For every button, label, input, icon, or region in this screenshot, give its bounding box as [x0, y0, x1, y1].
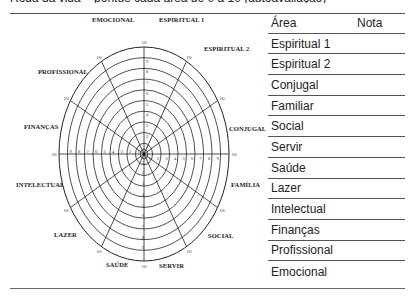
svg-text:2: 2: [129, 149, 131, 154]
label-familia: FAMÍLIA: [231, 181, 260, 188]
svg-text:10: 10: [142, 40, 148, 45]
svg-text:1: 1: [142, 160, 144, 165]
table-row: Conjugal: [268, 75, 405, 96]
svg-text:8: 8: [146, 69, 149, 74]
table-row: Emocional: [268, 261, 405, 282]
svg-text:8: 8: [78, 149, 81, 154]
svg-text:9: 9: [216, 156, 219, 161]
label-lazer: LAZER: [54, 231, 77, 238]
table-row: Familiar: [268, 96, 405, 117]
table-header: Área Nota: [268, 13, 405, 34]
svg-text:7: 7: [199, 156, 202, 161]
svg-text:4: 4: [174, 156, 177, 161]
svg-text:10: 10: [97, 249, 103, 254]
table-row: Servir: [268, 137, 405, 158]
row-area: Intelectual: [271, 202, 357, 216]
svg-text:10: 10: [64, 96, 70, 101]
label-intelectual: INTELECTUAL: [16, 181, 64, 188]
label-social: SOCIAL: [208, 232, 234, 239]
row-area: Familiar: [271, 99, 357, 113]
svg-text:7: 7: [142, 224, 145, 229]
row-area: Profissional: [271, 243, 357, 257]
header-nota: Nota: [357, 16, 405, 30]
row-area: Saúde: [271, 161, 357, 175]
table-row: Lazer: [268, 179, 405, 200]
svg-text:8: 8: [142, 235, 145, 240]
table-row: Profissional: [268, 241, 405, 262]
label-emocional: EMOCIONAL: [92, 16, 134, 23]
svg-text:1: 1: [146, 144, 148, 149]
table-row: Espiritual 2: [268, 54, 405, 75]
svg-text:5: 5: [142, 203, 145, 208]
svg-text:4: 4: [112, 149, 115, 154]
svg-text:3: 3: [165, 156, 168, 161]
table-row: Finanças: [268, 220, 405, 241]
svg-text:7: 7: [146, 80, 149, 85]
table-row: Social: [268, 116, 405, 137]
svg-text:6: 6: [142, 213, 145, 218]
row-area: Espiritual 1: [271, 37, 357, 51]
svg-text:10: 10: [187, 55, 193, 60]
row-area: Lazer: [271, 181, 357, 195]
label-espiritual-2: ESPIRITUAL 2: [204, 45, 249, 52]
wheel-of-life: 1010101010101010101010101111222233334444…: [0, 0, 265, 303]
svg-text:10: 10: [97, 55, 103, 60]
label-saude: SAÚDE: [106, 261, 129, 268]
row-area: Emocional: [271, 265, 357, 279]
svg-text:10: 10: [142, 264, 148, 269]
row-area: Finanças: [271, 223, 357, 237]
svg-text:6: 6: [95, 149, 98, 154]
scores-table: Área Nota Espiritual 1 Espiritual 2 Conj…: [268, 13, 405, 282]
svg-text:3: 3: [142, 181, 145, 186]
svg-text:5: 5: [182, 156, 185, 161]
svg-text:10: 10: [219, 208, 225, 213]
svg-text:10: 10: [219, 96, 225, 101]
svg-text:10: 10: [64, 208, 70, 213]
svg-text:4: 4: [142, 192, 145, 197]
label-profissional: PROFISSIONAL: [38, 68, 88, 75]
svg-text:9: 9: [69, 149, 72, 154]
row-area: Servir: [271, 140, 357, 154]
label-conjugal: CONJUGAL: [229, 125, 266, 132]
svg-text:10: 10: [52, 152, 58, 157]
svg-text:8: 8: [208, 156, 211, 161]
svg-text:4: 4: [146, 112, 149, 117]
table-row: Espiritual 1: [268, 34, 405, 55]
svg-text:2: 2: [142, 170, 144, 175]
svg-text:10: 10: [232, 152, 238, 157]
label-servir: SERVIR: [159, 262, 184, 269]
svg-text:6: 6: [146, 91, 149, 96]
row-area: Social: [271, 119, 357, 133]
row-area: Conjugal: [271, 78, 357, 92]
svg-text:1: 1: [137, 149, 139, 154]
svg-text:2: 2: [157, 156, 159, 161]
table-row: Intelectual: [268, 199, 405, 220]
svg-text:1: 1: [148, 156, 150, 161]
table-row: Saúde: [268, 158, 405, 179]
svg-text:7: 7: [86, 149, 89, 154]
svg-text:3: 3: [146, 123, 149, 128]
row-area: Espiritual 2: [271, 57, 357, 71]
svg-text:9: 9: [146, 59, 149, 64]
label-financas: FINANÇAS: [24, 123, 58, 130]
svg-text:6: 6: [191, 156, 194, 161]
svg-text:2: 2: [146, 134, 148, 139]
svg-text:5: 5: [103, 149, 106, 154]
svg-text:9: 9: [142, 245, 145, 250]
svg-text:3: 3: [120, 149, 123, 154]
header-area: Área: [271, 16, 357, 30]
svg-text:5: 5: [146, 102, 149, 107]
svg-text:10: 10: [187, 249, 193, 254]
label-espiritual-1: ESPIRITUAL 1: [159, 16, 204, 23]
